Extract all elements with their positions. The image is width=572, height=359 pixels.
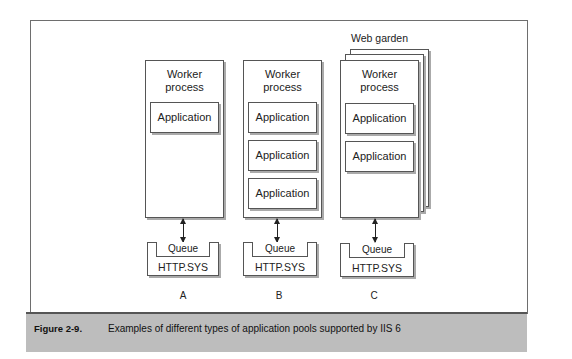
queue-a: Queue (156, 242, 210, 257)
application-b-1: Application (248, 102, 317, 133)
http-sys-label: HTTP.SYS (244, 261, 316, 273)
queue-b: Queue (252, 242, 308, 257)
bidirectional-arrow-a (183, 219, 184, 242)
application-c-2: Application (345, 141, 414, 172)
http-sys-label: HTTP.SYS (148, 261, 218, 273)
application-a-1: Application (150, 102, 219, 133)
arrowhead-up-icon (180, 218, 186, 224)
worker-process-c: Worker process (340, 60, 419, 218)
pool-letter-b: B (269, 290, 289, 301)
worker-process-title: Worker process (341, 68, 418, 94)
figure-label: Figure 2-9. (34, 323, 82, 334)
http-sys-label: HTTP.SYS (341, 262, 413, 274)
figure-caption-bar: Figure 2-9. Examples of different types … (26, 312, 527, 352)
http-sys-a: Queue HTTP.SYS (147, 242, 219, 276)
arrowhead-up-icon (274, 218, 280, 224)
arrowhead-up-icon (372, 218, 378, 224)
pool-letter-a: A (173, 290, 193, 301)
worker-process-title: Worker process (146, 68, 223, 94)
queue-c: Queue (349, 243, 405, 258)
pool-letter-c: C (364, 290, 384, 301)
bidirectional-arrow-c (375, 219, 376, 242)
http-sys-c: Queue HTTP.SYS (340, 243, 414, 277)
bidirectional-arrow-b (277, 219, 278, 242)
application-b-3: Application (248, 178, 317, 209)
figure-caption: Examples of different types of applicati… (108, 323, 401, 334)
application-c-1: Application (345, 103, 414, 134)
web-garden-label: Web garden (351, 32, 408, 44)
worker-process-a: Worker process (145, 60, 224, 218)
application-b-2: Application (248, 140, 317, 171)
worker-process-title: Worker process (244, 68, 321, 94)
http-sys-b: Queue HTTP.SYS (243, 242, 317, 276)
